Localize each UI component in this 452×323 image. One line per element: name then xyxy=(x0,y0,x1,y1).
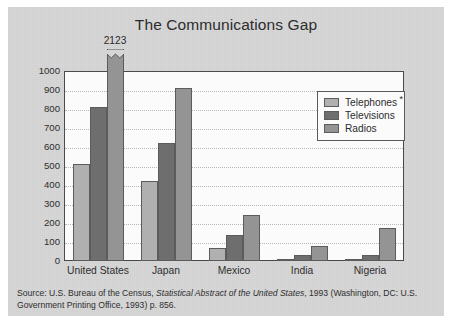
x-tick-label-nigeria: Nigeria xyxy=(336,265,404,276)
bar-telephones-united-states xyxy=(73,164,90,261)
y-tick-label: 900 xyxy=(26,85,60,95)
legend-label-telephones: Telephones* xyxy=(345,97,397,108)
legend-label-radios: Radios xyxy=(345,123,377,134)
bar-televisions-nigeria xyxy=(362,255,379,261)
x-tick-label-india: India xyxy=(268,265,336,276)
source-suffix: , 1993 (Washington, DC: xyxy=(304,288,398,298)
y-tick-label: 1000 xyxy=(26,66,60,76)
broken-bar-value-label: 2123 xyxy=(95,35,136,46)
x-tick-label-united-states: United States xyxy=(64,265,132,276)
bar-radios-nigeria xyxy=(379,228,396,261)
y-axis-tick-labels: 10009008007006005004003002001000 xyxy=(22,71,60,261)
bar-radios-mexico xyxy=(243,215,260,261)
source-note: Source: U.S. Bureau of the Census, Stati… xyxy=(17,288,437,311)
legend-swatch-radios xyxy=(324,124,339,133)
bar-televisions-united-states xyxy=(90,107,107,261)
y-tick-label: 500 xyxy=(26,161,60,171)
y-tick-label: 200 xyxy=(26,218,60,228)
y-tick-label: 400 xyxy=(26,180,60,190)
legend-footnote-asterisk: * xyxy=(400,94,404,104)
bar-radios-united-states xyxy=(107,71,124,261)
source-prefix: Source: U.S. Bureau of the Census, xyxy=(17,288,156,298)
broken-bar-zigzag-icon xyxy=(107,50,124,60)
chart-title: The Communications Gap xyxy=(8,16,444,34)
bar-telephones-nigeria xyxy=(345,259,362,261)
chart-legend: Telephones*TelevisionsRadios xyxy=(317,91,405,141)
legend-item-radios[interactable]: Radios xyxy=(324,122,397,135)
bar-televisions-india xyxy=(294,255,311,261)
legend-swatch-telephones xyxy=(324,98,339,107)
x-tick-label-mexico: Mexico xyxy=(200,265,268,276)
chart-figure: The Communications Gap Number of applian… xyxy=(8,7,444,316)
y-tick-label: 800 xyxy=(26,104,60,114)
legend-item-telephones[interactable]: Telephones* xyxy=(324,96,397,109)
bar-telephones-japan xyxy=(141,181,158,261)
bar-televisions-mexico xyxy=(226,235,243,261)
bar-radios-japan xyxy=(175,88,192,261)
x-axis-tick-labels: United StatesJapanMexicoIndiaNigeria xyxy=(64,265,404,281)
legend-item-televisions[interactable]: Televisions xyxy=(324,109,397,122)
legend-label-televisions: Televisions xyxy=(345,110,395,121)
bar-telephones-mexico xyxy=(209,248,226,261)
x-tick-label-japan: Japan xyxy=(132,265,200,276)
bar-radios-india xyxy=(311,246,328,261)
y-tick-label: 100 xyxy=(26,237,60,247)
bar-televisions-japan xyxy=(158,143,175,261)
y-tick-label: 600 xyxy=(26,142,60,152)
y-tick-label: 0 xyxy=(26,256,60,266)
y-tick-label: 700 xyxy=(26,123,60,133)
bar-telephones-india xyxy=(277,259,294,261)
source-title-italic: Statistical Abstract of the United State… xyxy=(156,288,304,298)
legend-swatch-televisions xyxy=(324,111,339,120)
y-tick-label: 300 xyxy=(26,199,60,209)
